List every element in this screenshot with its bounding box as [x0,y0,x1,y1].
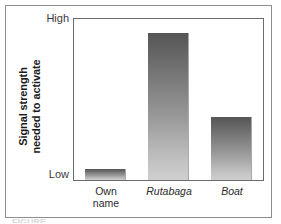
x-category-label-boat: Boat [197,186,267,198]
x-category-label-boat-line1: Boat [221,185,243,197]
bar-rutabaga [148,33,189,180]
bar-boat [211,117,252,180]
x-category-label-own-name-line1: Own [95,185,117,197]
y-axis-title-line1: Signal strength [17,67,29,146]
y-tick-label-low: Low [29,168,69,180]
x-category-label-own-name: Own name [71,186,141,209]
x-category-label-own-name-line2: name [71,198,141,210]
bar-own-name [85,169,126,180]
y-tick-label-high: High [29,12,69,24]
bars-layer [74,19,263,180]
figure-caption-partial: FIGURE [12,217,262,223]
figure-panel: Signal strength needed to activate High … [0,0,281,224]
x-category-label-rutabaga-line1: Rutabaga [146,185,192,197]
x-category-label-rutabaga: Rutabaga [134,186,204,198]
y-axis-title: Signal strength needed to activate [17,37,42,177]
y-axis-title-line2: needed to activate [29,59,41,153]
